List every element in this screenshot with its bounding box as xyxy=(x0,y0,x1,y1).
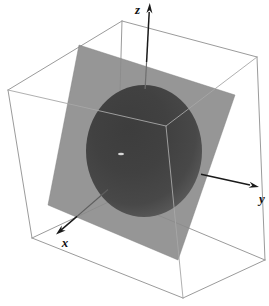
y-axis-shaft xyxy=(201,174,250,185)
cube-edge-vertical-left xyxy=(8,90,32,238)
cube-edge-top-right-back xyxy=(122,21,257,57)
figure-canvas: z x y xyxy=(0,0,269,306)
z-axis-arrowhead xyxy=(146,3,152,14)
sphere xyxy=(86,85,202,217)
y-axis-arrowhead xyxy=(249,182,259,188)
3d-diagram: z x y xyxy=(0,0,269,306)
cube-edge-bottom-front-right xyxy=(183,260,265,298)
z-axis-shaft xyxy=(147,12,150,62)
sphere-highlight-dot xyxy=(118,153,124,155)
x-axis-label: x xyxy=(61,235,69,250)
y-axis xyxy=(201,174,259,188)
z-axis-label: z xyxy=(134,2,141,17)
y-axis-label: y xyxy=(257,191,265,206)
cube-edge-vertical-right xyxy=(257,57,265,260)
sphere-body xyxy=(86,85,202,217)
